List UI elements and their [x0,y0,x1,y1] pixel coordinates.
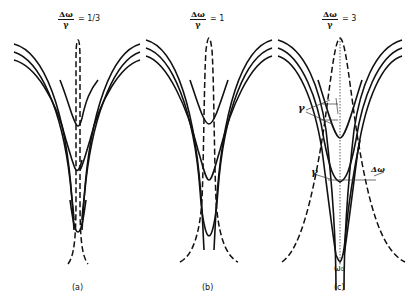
panel-a-value: = 1/3 [78,14,100,23]
panel-b-curves [146,38,272,262]
resonance-diagram [0,0,419,299]
ratio-denominator: γ [190,20,206,29]
panel-a-ratio: Δω γ [58,10,74,29]
panel-b-value: = 1 [210,14,224,23]
ratio-denominator: γ [58,20,74,29]
panel-a-caption: (a) [72,283,83,292]
panel-b-caption: (b) [202,283,213,292]
panel-c-value: = 3 [342,14,356,23]
ratio-denominator: γ [322,20,338,29]
omega0-label: ω₀ [334,264,344,273]
panel-b-ratio: Δω γ [190,10,206,29]
panel-c-ratio: Δω γ [322,10,338,29]
gamma-label-lower: γ [311,166,318,177]
panel-c-caption: (c) [334,283,345,292]
delta-omega-label: Δω [371,164,385,174]
panel-c-curves [278,38,405,290]
gamma-label-upper: γ [298,102,305,113]
panel-a-curves [14,40,140,264]
